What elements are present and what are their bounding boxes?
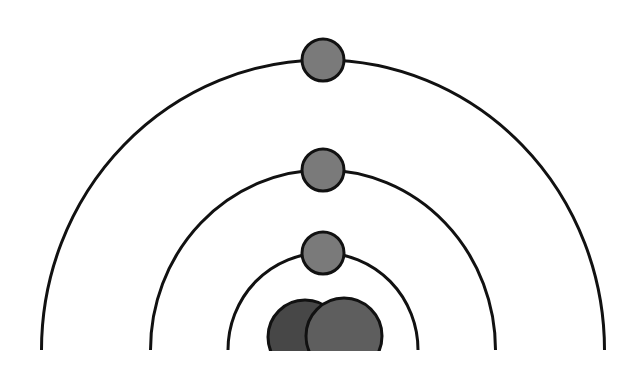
electrons xyxy=(302,39,344,274)
nucleus xyxy=(268,298,382,374)
nucleus-particle-right xyxy=(306,298,382,374)
electron-shell-3 xyxy=(302,39,344,81)
atom-diagram xyxy=(0,0,644,375)
bohr-model-canvas xyxy=(0,0,644,375)
electron-shell-2 xyxy=(302,149,344,191)
electron-shell-1 xyxy=(302,232,344,274)
